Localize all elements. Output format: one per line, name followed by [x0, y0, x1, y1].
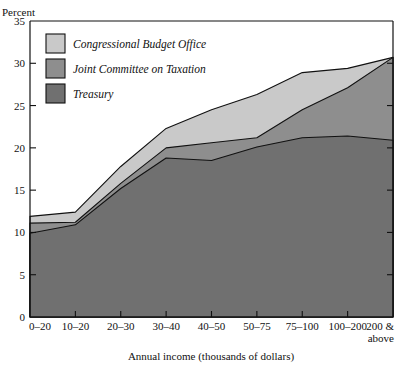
y-tick-label: 15	[14, 184, 26, 196]
legend-label-2: Treasury	[73, 88, 114, 101]
chart-container: Percent 05101520253035 0–2010–2020–3030–…	[0, 0, 416, 372]
legend-swatch-0	[46, 34, 65, 53]
x-tick-label: 0–20	[29, 320, 52, 332]
x-tick-label: 75–100	[286, 320, 320, 332]
legend-label-1: Joint Committee on Taxation	[73, 63, 206, 75]
x-tick-label: 200 &	[366, 320, 394, 332]
y-tick-label: 20	[14, 142, 26, 154]
x-axis-title: Annual income (thousands of dollars)	[128, 350, 295, 363]
x-tick-label: 50–75	[243, 320, 271, 332]
stacked-area-chart: Percent 05101520253035 0–2010–2020–3030–…	[0, 0, 416, 372]
y-tick-label: 5	[20, 269, 26, 281]
y-tick-label: 30	[14, 57, 26, 69]
legend-label-0: Congressional Budget Office	[73, 38, 206, 51]
x-tick-label-line2: above	[368, 332, 394, 344]
y-tick-label: 0	[20, 311, 26, 323]
y-tick-label: 25	[14, 100, 26, 112]
legend-swatch-2	[46, 84, 65, 103]
legend-swatch-1	[46, 59, 65, 78]
y-tick-label: 35	[14, 15, 26, 27]
x-tick-label: 100–200	[328, 320, 367, 332]
y-tick-label: 10	[14, 226, 26, 238]
x-tick-label: 20–30	[107, 320, 135, 332]
x-tick-label: 40–50	[198, 320, 226, 332]
x-tick-label: 30–40	[152, 320, 180, 332]
x-tick-label: 10–20	[62, 320, 90, 332]
